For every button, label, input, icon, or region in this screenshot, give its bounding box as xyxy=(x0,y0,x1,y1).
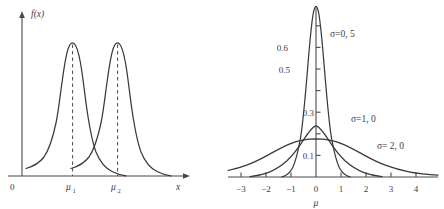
left-y-axis xyxy=(19,11,25,176)
right-xtick-label-6: 3 xyxy=(389,184,394,194)
right-series-label-sigma-1-0: σ=1, 0 xyxy=(351,114,376,124)
left-y-axis-arrow-icon xyxy=(19,11,25,18)
right-ytick-label-2: 0.3 xyxy=(303,108,315,118)
left-y-axis-label: f(x) xyxy=(31,9,44,20)
right-series-label-sigma-2-0: σ= 2, 0 xyxy=(377,141,404,151)
right-ytick-label-1: 0.5 xyxy=(279,65,291,75)
figure-container: f(x) x 0 μ 1 μ 2 xyxy=(0,0,444,209)
two-panel-normal-distribution-figure: f(x) x 0 μ 1 μ 2 xyxy=(0,0,444,209)
left-curve-mu1 xyxy=(26,43,126,176)
right-xtick-label-2: −1 xyxy=(286,184,296,194)
left-x-axis-arrow-icon xyxy=(183,173,190,179)
right-x-axis-label: μ xyxy=(313,198,319,208)
right-xtick-label-0: −3 xyxy=(236,184,246,194)
left-x-axis-label: x xyxy=(175,182,181,192)
right-xtick-label-1: −2 xyxy=(261,184,271,194)
right-panel: 0.6 0.5 0.3 0.1 −3 −2 −1 0 1 2 3 4 μ σ=0… xyxy=(228,6,438,208)
left-xtick-mu1-subscript: 1 xyxy=(73,187,76,194)
left-panel: f(x) x 0 μ 1 μ 2 xyxy=(8,9,190,194)
right-ytick-label-3: 0.1 xyxy=(303,151,314,161)
left-xtick-mu2-base: μ xyxy=(110,182,116,192)
right-xtick-label-7: 4 xyxy=(414,184,419,194)
right-series-label-sigma-0-5: σ=0, 5 xyxy=(330,29,355,39)
right-y-ticks xyxy=(316,26,321,156)
left-xtick-label-mu2: μ 2 xyxy=(110,182,121,194)
left-origin-label: 0 xyxy=(10,182,15,192)
right-xtick-label-3: 0 xyxy=(314,184,319,194)
left-xtick-mu1-base: μ xyxy=(65,182,71,192)
right-xtick-label-5: 2 xyxy=(364,184,369,194)
left-xtick-label-mu1: μ 1 xyxy=(65,182,76,194)
left-xtick-mu2-subscript: 2 xyxy=(118,187,121,194)
right-xtick-label-4: 1 xyxy=(339,184,344,194)
left-curve-mu2 xyxy=(71,43,171,176)
right-ytick-label-0: 0.6 xyxy=(277,43,289,53)
